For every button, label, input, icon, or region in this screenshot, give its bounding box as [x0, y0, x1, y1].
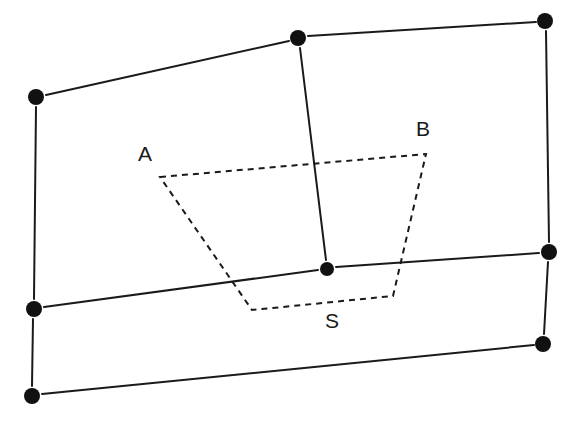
- edge-top-right-down: [546, 31, 549, 242]
- node-left-middle: [26, 301, 42, 317]
- diagram-svg: ABS: [0, 0, 584, 421]
- edge-top-center-down-to-center: [300, 48, 326, 260]
- node-top-right: [537, 13, 553, 29]
- vertex-labels-group: ABS: [138, 117, 430, 332]
- node-right-lower: [535, 336, 551, 352]
- edge-left-middle-down: [32, 319, 33, 386]
- figure-canvas: ABS: [0, 0, 584, 421]
- label-s: S: [325, 309, 339, 332]
- edge-top-center-to-top-right: [308, 22, 536, 36]
- edge-center-to-right-middle: [336, 253, 539, 267]
- node-left-lower: [24, 388, 40, 404]
- label-a: A: [138, 142, 152, 165]
- node-top-center: [290, 30, 306, 46]
- label-b: B: [416, 117, 430, 140]
- node-left-upper: [28, 89, 44, 105]
- node-right-middle: [541, 244, 557, 260]
- edge-right-middle-down: [544, 262, 548, 334]
- edge-left-upper-down: [34, 107, 36, 299]
- edge-left-upper-to-top-center: [46, 41, 289, 95]
- solid-edges-group: [32, 22, 549, 394]
- node-dots-group: [24, 13, 557, 404]
- edge-left-lower-to-right-lower: [42, 345, 534, 394]
- node-center: [320, 262, 334, 276]
- edge-left-middle-to-center: [44, 270, 318, 307]
